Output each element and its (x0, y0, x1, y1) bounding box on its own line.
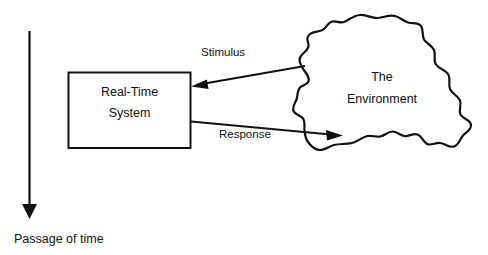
system-box-label-line2: System (68, 103, 191, 124)
environment-label: The Environment (322, 66, 442, 110)
system-box-label-line1: Real-Time (68, 82, 191, 103)
time-arrow-head (22, 204, 37, 219)
stimulus-arrow-shaft (196, 66, 305, 85)
stimulus-arrow (191, 66, 305, 89)
environment-label-line2: Environment (322, 88, 442, 110)
environment-label-line1: The (322, 66, 442, 88)
time-arrow (22, 31, 37, 219)
stimulus-arrow-head (191, 80, 209, 90)
time-arrow-label: Passage of time (14, 232, 104, 246)
stimulus-arrow-label: Stimulus (201, 45, 245, 59)
diagram-canvas: Real-Time System The Environment Stimulu… (0, 0, 488, 255)
response-arrow-label: Response (219, 127, 271, 141)
system-box-label: Real-Time System (68, 82, 191, 124)
